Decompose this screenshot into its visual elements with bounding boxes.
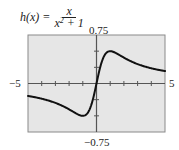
plot-area	[0, 0, 179, 150]
